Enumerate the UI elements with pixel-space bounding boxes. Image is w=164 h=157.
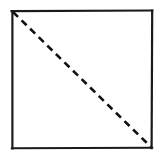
figure-canvas: Square with dashed diagonal xyxy=(0,0,164,157)
square-edge-right xyxy=(152,11,153,149)
square-dashed-diagonal-diagram xyxy=(0,0,164,157)
square-edge-top xyxy=(12,11,153,12)
square-edge-bottom xyxy=(12,148,153,149)
